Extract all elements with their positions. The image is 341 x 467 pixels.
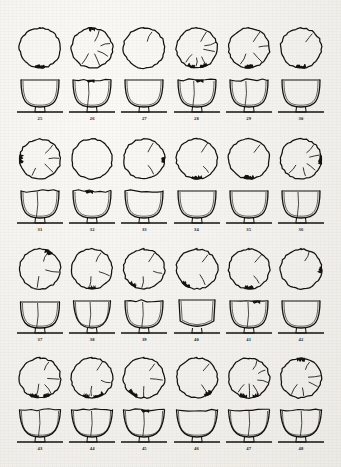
bowl-top-cell[interactable] <box>68 243 116 295</box>
bowl-profile-cell[interactable]: 45 <box>120 404 168 450</box>
bowl-top-view <box>173 133 221 185</box>
bowl-number-label: 48 <box>277 446 325 451</box>
bowl-profile-cell[interactable]: 25 <box>16 74 64 120</box>
bowl-profile-cell[interactable]: 33 <box>120 185 168 231</box>
bowl-top-view <box>120 133 168 185</box>
bowl-top-cell[interactable] <box>277 352 325 404</box>
bowl-number-label: 38 <box>68 337 116 342</box>
bowl-number-label: 33 <box>120 227 168 232</box>
bowl-number-label: 41 <box>225 337 273 342</box>
bowl-top-view <box>277 133 325 185</box>
bowl-top-view <box>120 243 168 295</box>
bowl-top-view <box>225 352 273 404</box>
top-view-row <box>16 22 325 74</box>
bowl-profile-cell[interactable]: 37 <box>16 295 64 341</box>
bowl-profile-cell[interactable]: 48 <box>277 404 325 450</box>
bowl-top-cell[interactable] <box>173 22 221 74</box>
bowl-profile-view <box>16 404 64 450</box>
bowl-profile-cell[interactable]: 38 <box>68 295 116 341</box>
bowl-profile-view <box>173 74 221 120</box>
bowl-profile-cell[interactable]: 42 <box>277 295 325 341</box>
top-view-row <box>16 243 325 295</box>
bowl-profile-cell[interactable]: 28 <box>173 74 221 120</box>
bowl-top-cell[interactable] <box>120 133 168 185</box>
bowl-profile-cell[interactable]: 35 <box>225 185 273 231</box>
bowl-profile-cell[interactable]: 41 <box>225 295 273 341</box>
bowl-profile-cell[interactable]: 31 <box>16 185 64 231</box>
bowl-top-cell[interactable] <box>225 22 273 74</box>
bowl-profile-view <box>277 295 325 341</box>
bowl-profile-view <box>16 185 64 231</box>
bowl-profile-cell[interactable]: 27 <box>120 74 168 120</box>
bowl-number-label: 27 <box>120 116 168 121</box>
bowl-block-1: 252627282930 <box>16 22 325 120</box>
bowl-profile-cell[interactable]: 46 <box>173 404 221 450</box>
bowl-top-cell[interactable] <box>68 133 116 185</box>
bowl-top-cell[interactable] <box>225 243 273 295</box>
bowl-top-cell[interactable] <box>173 133 221 185</box>
bowl-profile-cell[interactable]: 26 <box>68 74 116 120</box>
bowl-top-view <box>173 22 221 74</box>
bowl-profile-view <box>120 185 168 231</box>
bowl-top-cell[interactable] <box>277 133 325 185</box>
bowl-profile-view <box>225 74 273 120</box>
bowl-profile-cell[interactable]: 39 <box>120 295 168 341</box>
bowl-top-view <box>16 22 64 74</box>
bowl-profile-cell[interactable]: 43 <box>16 404 64 450</box>
bowl-top-cell[interactable] <box>120 243 168 295</box>
bowl-top-cell[interactable] <box>68 22 116 74</box>
bowl-profile-cell[interactable]: 36 <box>277 185 325 231</box>
bowl-top-view <box>68 243 116 295</box>
profile-view-row: 313233343536 <box>16 185 325 231</box>
bowl-top-cell[interactable] <box>225 133 273 185</box>
bowl-number-label: 34 <box>173 227 221 232</box>
bowl-top-cell[interactable] <box>277 243 325 295</box>
bowl-profile-cell[interactable]: 32 <box>68 185 116 231</box>
bowl-number-label: 25 <box>16 116 64 121</box>
bowl-number-label: 30 <box>277 116 325 121</box>
bowl-number-label: 29 <box>225 116 273 121</box>
bowl-profile-view <box>16 295 64 341</box>
bowl-top-cell[interactable] <box>68 352 116 404</box>
bowl-profile-cell[interactable]: 30 <box>277 74 325 120</box>
bowl-top-view <box>16 243 64 295</box>
bowl-top-cell[interactable] <box>225 352 273 404</box>
bowl-profile-cell[interactable]: 47 <box>225 404 273 450</box>
bowl-top-cell[interactable] <box>120 352 168 404</box>
bowl-top-view <box>68 22 116 74</box>
bowl-profile-view <box>277 404 325 450</box>
bowl-top-view <box>68 352 116 404</box>
bowl-top-cell[interactable] <box>16 22 64 74</box>
bowl-profile-view <box>120 74 168 120</box>
bowl-number-label: 32 <box>68 227 116 232</box>
bowl-profile-cell[interactable]: 44 <box>68 404 116 450</box>
bowl-top-cell[interactable] <box>16 243 64 295</box>
bowl-profile-view <box>173 404 221 450</box>
bowl-number-label: 43 <box>16 446 64 451</box>
bowl-top-cell[interactable] <box>16 133 64 185</box>
bowl-profile-cell[interactable]: 34 <box>173 185 221 231</box>
bowl-top-cell[interactable] <box>173 243 221 295</box>
bowl-top-view <box>225 243 273 295</box>
bowl-top-cell[interactable] <box>277 22 325 74</box>
bowl-profile-cell[interactable]: 29 <box>225 74 273 120</box>
bowl-top-view <box>120 352 168 404</box>
bowl-number-label: 35 <box>225 227 273 232</box>
bowl-top-view <box>225 133 273 185</box>
bowl-profile-view <box>68 185 116 231</box>
profile-view-row: 373839404142 <box>16 295 325 341</box>
bowl-top-view <box>277 22 325 74</box>
bowl-top-cell[interactable] <box>173 352 221 404</box>
bowl-number-label: 47 <box>225 446 273 451</box>
bowl-number-label: 26 <box>68 116 116 121</box>
bowl-profile-view <box>120 295 168 341</box>
bowl-top-cell[interactable] <box>16 352 64 404</box>
bowl-top-cell[interactable] <box>120 22 168 74</box>
profile-view-row: 252627282930 <box>16 74 325 120</box>
bowl-profile-view <box>68 74 116 120</box>
bowl-profile-cell[interactable]: 40 <box>173 295 221 341</box>
bowl-number-label: 44 <box>68 446 116 451</box>
bowl-top-view <box>16 133 64 185</box>
bowl-top-view <box>120 22 168 74</box>
bowl-number-label: 46 <box>173 446 221 451</box>
